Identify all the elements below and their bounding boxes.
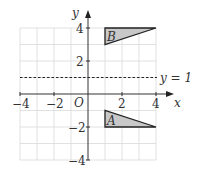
line-label: y = 1 [159, 71, 192, 85]
x-axis-arrow-icon [166, 91, 174, 97]
x-tick-label: −2 [46, 97, 64, 111]
y-tick-label: −2 [68, 121, 86, 135]
axes [20, 14, 170, 160]
shape-label-a: A [106, 114, 116, 128]
y-tick-label: 4 [76, 22, 84, 36]
shape-label-b: B [106, 30, 116, 44]
x-tick-label: 2 [118, 97, 126, 111]
y-axis-label: y [71, 6, 79, 20]
x-tick-label: −4 [12, 97, 30, 111]
coordinate-diagram: x y O −4 −2 2 4 4 2 −2 −4 y = 1 B A [0, 0, 199, 173]
y-tick-label: 2 [76, 55, 84, 69]
y-axis-arrow-icon [85, 10, 91, 18]
x-axis-label: x [174, 96, 181, 110]
x-tick-label: 4 [152, 97, 160, 111]
y-tick-label: −4 [68, 154, 86, 168]
origin-label: O [74, 96, 84, 110]
